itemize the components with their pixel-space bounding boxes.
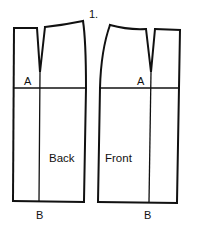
back-grain-line [39, 72, 40, 201]
front-point-a-label: A [137, 76, 144, 87]
front-waist-right [155, 29, 180, 30]
back-hem [13, 201, 84, 202]
back-dart [37, 27, 45, 72]
back-pattern-piece [13, 21, 86, 202]
front-dart [146, 29, 155, 72]
back-waist-right [45, 21, 83, 27]
front-piece-label: Front [105, 153, 132, 165]
back-piece-label: Back [49, 153, 75, 165]
front-side-seam [177, 30, 180, 202]
front-hem [98, 202, 177, 203]
back-point-a-label: A [24, 76, 31, 87]
front-grain-line [149, 72, 151, 202]
front-point-b-label: B [144, 210, 151, 221]
back-center-seam [83, 21, 86, 201]
figure-number: 1. [89, 9, 98, 20]
front-center-seam [98, 25, 110, 202]
front-pattern-piece [98, 25, 180, 203]
pattern-drawing [0, 0, 198, 228]
back-side-seam [13, 28, 14, 201]
back-point-b-label: B [36, 210, 43, 221]
skirt-pattern-diagram: 1. A A Back Front B B [0, 0, 198, 228]
front-waist-left [110, 25, 146, 29]
